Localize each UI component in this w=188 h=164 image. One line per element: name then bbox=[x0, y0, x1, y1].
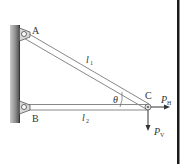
label-a: A bbox=[32, 25, 40, 36]
joint-c bbox=[145, 104, 151, 110]
svg-text:1: 1 bbox=[90, 60, 93, 66]
label-c: C bbox=[145, 90, 152, 101]
label-b: B bbox=[32, 113, 39, 124]
svg-text:l: l bbox=[86, 54, 89, 65]
truss-diagram: A B C l 1 l 2 θ P H P V bbox=[0, 0, 188, 164]
bar-l1 bbox=[22, 31, 149, 109]
svg-text:H: H bbox=[167, 100, 172, 106]
pin-support-b bbox=[20, 101, 31, 114]
svg-text:l: l bbox=[82, 112, 85, 123]
pin-support-a bbox=[20, 28, 31, 41]
frame-border bbox=[177, 0, 180, 164]
label-l1: l 1 bbox=[86, 54, 93, 66]
svg-text:V: V bbox=[160, 132, 165, 138]
bar-l2 bbox=[24, 105, 148, 111]
label-pv: P V bbox=[153, 126, 165, 138]
svg-text:2: 2 bbox=[86, 118, 89, 124]
label-ph: P H bbox=[160, 94, 172, 106]
label-theta: θ bbox=[113, 94, 118, 105]
label-l2: l 2 bbox=[82, 112, 89, 124]
wall bbox=[10, 25, 20, 123]
vertical-load-arrow bbox=[146, 110, 151, 131]
